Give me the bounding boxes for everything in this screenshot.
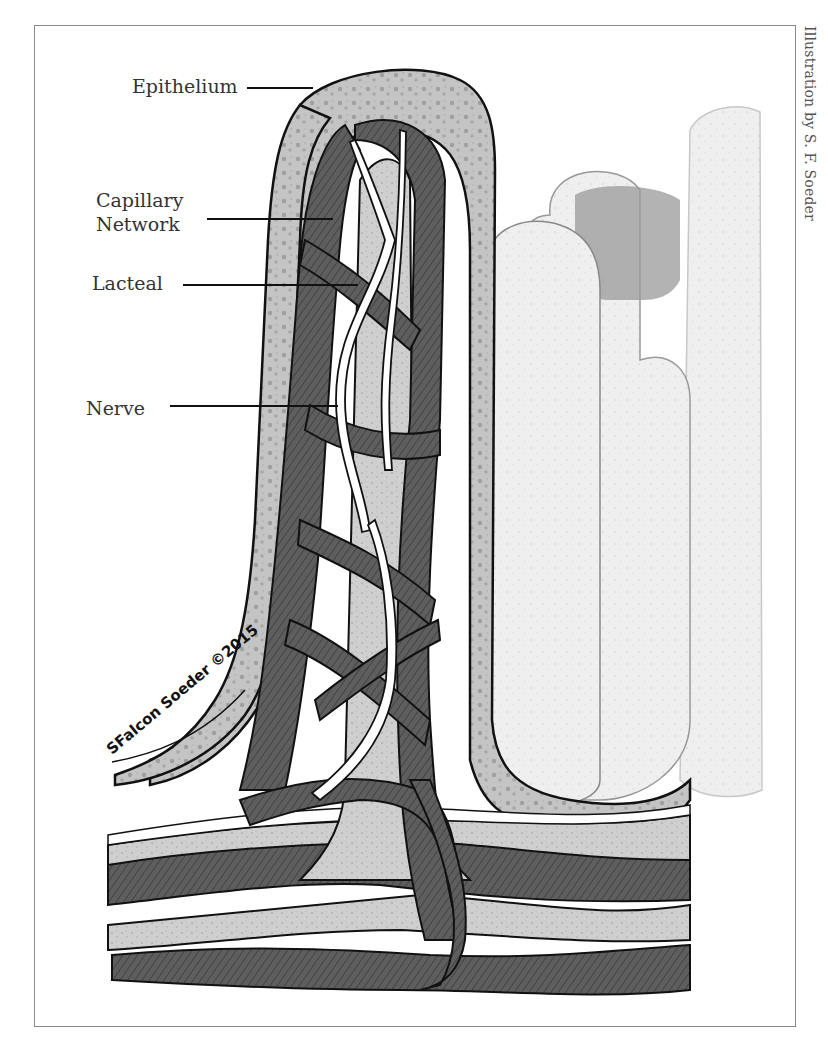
background-villi [488,107,762,806]
lacteal-band-lower [108,895,690,950]
leader-nerve [170,405,338,407]
background-villus-far [680,107,762,797]
label-capillary-network-line1: Capillary [96,188,183,212]
leader-capillary-network [207,218,333,220]
background-villus-near [488,221,600,806]
villus-illustration: SFalcon Soeder ©2015 [0,0,828,1041]
capillary-band-bottom [112,945,690,994]
label-epithelium: Epithelium [132,74,238,98]
label-capillary-network-line2: Network [96,212,180,236]
label-nerve: Nerve [86,396,145,420]
leader-lacteal [183,284,358,286]
leader-epithelium [247,87,313,89]
label-lacteal: Lacteal [92,271,163,295]
